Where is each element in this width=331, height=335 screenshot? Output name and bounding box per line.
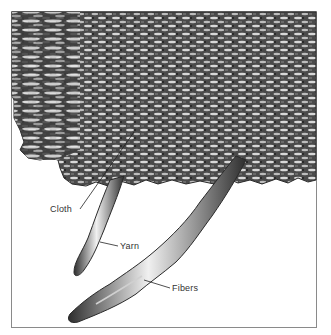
fibers-label: Fibers [172,283,198,293]
yarn-leader-line [100,242,118,246]
cloth-label: Cloth [50,204,72,214]
cloth-yarn-fibers-illustration: Cloth Yarn Fibers [0,0,331,335]
yarn-label: Yarn [120,241,139,251]
yarn-strand [74,176,124,276]
cloth-swatch [12,12,316,186]
illustration-art [0,0,331,335]
